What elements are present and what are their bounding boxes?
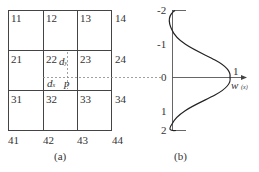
tick-label-neg1: -1 [157,39,166,50]
cell-label-33: 33 [80,94,91,105]
grid-lines [8,10,112,131]
cell-label-23: 23 [80,54,91,65]
w-label: w [231,79,238,91]
axis-label-w: w (x) [231,80,248,93]
cell-label-11: 11 [11,13,22,24]
cell-label-34: 34 [115,94,126,105]
dy-subscript: y [65,60,68,66]
tick-label-0: 0 [161,72,167,83]
dx-annotation: dx [47,78,55,91]
cell-label-13: 13 [80,13,91,24]
caption-a: (a) [54,151,66,162]
cell-label-44: 44 [112,135,123,146]
cell-label-14: 14 [115,13,126,24]
cell-label-24: 24 [115,54,126,65]
cell-label-21: 21 [11,54,22,65]
cell-label-31: 31 [11,94,22,105]
peak-label: 1 [233,66,239,77]
dy-annotation: dy [59,56,67,69]
cell-label-22: 22 [46,54,57,65]
dx-subscript: x [53,82,56,88]
cell-label-43: 43 [77,135,88,146]
cell-label-42: 42 [43,135,54,146]
cell-label-12: 12 [46,13,57,24]
tick-label-1: 1 [161,106,167,117]
w-subscript: (x) [241,84,248,90]
tick-label-2: 2 [161,125,167,136]
tick-label-neg2: -2 [157,5,166,16]
caption-b: (b) [174,151,187,162]
weight-curve [169,11,230,131]
cell-label-32: 32 [46,94,57,105]
point-p-label: p [64,78,70,89]
cell-label-41: 41 [8,135,19,146]
diagram-canvas [0,0,259,172]
